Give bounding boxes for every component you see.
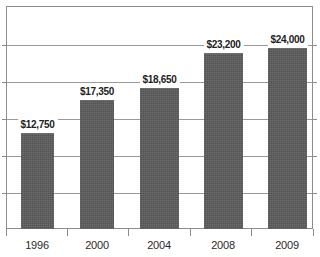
bar-value-label: $17,350 [77, 86, 117, 98]
bar-value-label: $18,650 [139, 74, 179, 86]
x-axis-tick [313, 229, 314, 236]
x-axis-tick [251, 229, 252, 236]
bar-value-label: $12,750 [17, 119, 57, 131]
bar-chart: $12,750$17,350$18,650$23,200$24,000 1996… [0, 0, 320, 257]
bar[interactable] [204, 53, 243, 229]
bar[interactable] [268, 48, 307, 229]
bar[interactable] [80, 100, 114, 229]
bar[interactable] [21, 133, 54, 229]
x-axis-category-label: 1996 [25, 239, 49, 251]
x-axis: 19962000200420082009 [0, 229, 320, 257]
x-axis-category-label: 2009 [275, 239, 299, 251]
bar-value-label: $24,000 [267, 34, 307, 46]
bar[interactable] [140, 88, 179, 229]
bar-value-label: $23,200 [203, 39, 243, 51]
x-axis-category-label: 2000 [85, 239, 109, 251]
x-axis-tick [190, 229, 191, 236]
x-axis-category-label: 2008 [211, 239, 235, 251]
x-axis-tick [67, 229, 68, 236]
bars-layer: $12,750$17,350$18,650$23,200$24,000 [0, 0, 320, 257]
x-axis-tick [6, 229, 7, 236]
x-axis-category-label: 2004 [147, 239, 171, 251]
x-axis-tick [128, 229, 129, 236]
